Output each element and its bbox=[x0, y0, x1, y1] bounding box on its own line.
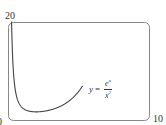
x-max-label: 10 bbox=[153, 114, 163, 124]
y-max-label: 20 bbox=[5, 11, 15, 21]
chart-plot bbox=[0, 0, 166, 125]
function-label: y = ex x2 bbox=[89, 78, 112, 99]
fraction: ex x2 bbox=[104, 78, 112, 99]
x-min-label: 0 bbox=[0, 117, 2, 125]
viewing-rectangle bbox=[9, 23, 150, 121]
function-curve bbox=[11, 22, 82, 112]
